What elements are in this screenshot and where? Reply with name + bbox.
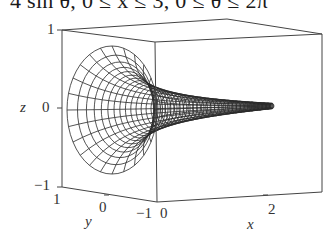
x-tick-0: 0 bbox=[160, 206, 168, 221]
z-tick-minus1: −1 bbox=[34, 178, 50, 193]
horn-surface bbox=[67, 46, 274, 174]
z-axis-label: z bbox=[20, 100, 26, 115]
z-tick-1: 1 bbox=[47, 22, 55, 37]
y-tick-0: 0 bbox=[99, 200, 107, 215]
x-tick-2: 2 bbox=[268, 202, 276, 217]
z-tick-0: 0 bbox=[42, 100, 50, 115]
x-axis-label: x bbox=[247, 217, 254, 232]
y-tick-1: 1 bbox=[53, 192, 61, 207]
y-tick-minus1: −1 bbox=[136, 206, 152, 221]
y-axis-label: y bbox=[85, 214, 92, 229]
